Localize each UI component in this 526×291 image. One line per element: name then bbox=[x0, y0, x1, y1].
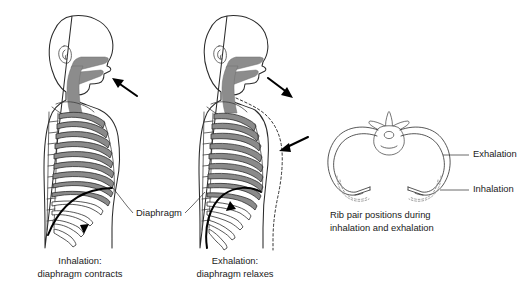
diagram-canvas: Inhalation: diaphragm contracts bbox=[0, 0, 526, 291]
diaphragm-label: Diaphragm bbox=[136, 207, 182, 218]
rib-pair-caption-line2: inhalation and exhalation bbox=[330, 222, 434, 233]
inhalation-caption-line2: diaphragm contracts bbox=[38, 268, 123, 279]
inhalation-position-label: Inhalation bbox=[473, 183, 514, 194]
inhalation-caption-line1: Inhalation: bbox=[58, 255, 101, 266]
exhalation-caption-line2: diaphragm relaxes bbox=[196, 268, 273, 279]
breathing-mechanics-diagram: Inhalation: diaphragm contracts bbox=[0, 0, 526, 291]
exhalation-caption-line1: Exhalation: bbox=[212, 255, 258, 266]
rib-pair-caption-line1: Rib pair positions during bbox=[330, 209, 431, 220]
exhalation-position-label: Exhalation bbox=[473, 148, 517, 159]
